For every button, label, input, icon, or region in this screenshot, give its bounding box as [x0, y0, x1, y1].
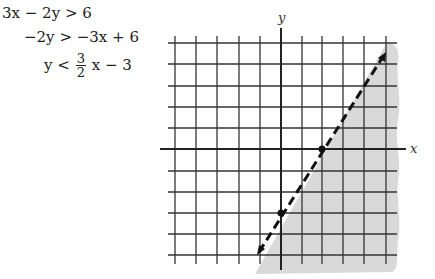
shaded-region	[255, 44, 399, 274]
x-intercept-point	[319, 146, 326, 153]
y-intercept-point	[278, 210, 285, 217]
x-axis-label: x	[410, 141, 418, 156]
y-axis-label: y	[277, 10, 286, 25]
coordinate-graph: x y	[0, 0, 435, 279]
